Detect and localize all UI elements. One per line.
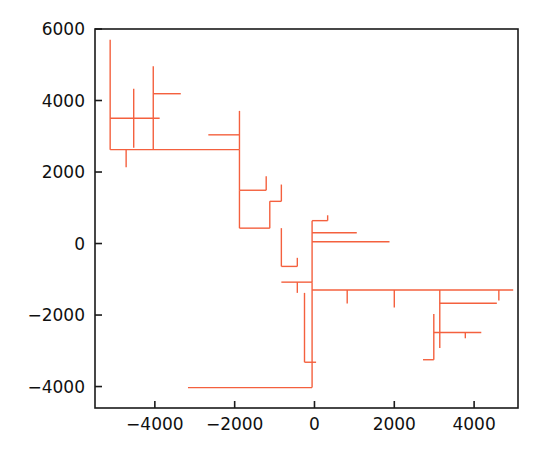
y-tick-label: 6000 <box>42 19 85 39</box>
y-tick-label: −2000 <box>27 305 85 325</box>
x-tick-label: 4000 <box>452 414 495 434</box>
scatter-plot: −4000−2000020004000−4000−200002000400060… <box>0 0 538 462</box>
y-tick-label: 4000 <box>42 91 85 111</box>
x-tick-label: 2000 <box>373 414 416 434</box>
y-tick-label: 0 <box>74 234 85 254</box>
x-tick-label: −4000 <box>126 414 184 434</box>
y-tick-label: −4000 <box>27 377 85 397</box>
y-tick-label: 2000 <box>42 162 85 182</box>
figure-root: −4000−2000020004000−4000−200002000400060… <box>0 0 538 462</box>
x-tick-label: 0 <box>309 414 320 434</box>
x-tick-label: −2000 <box>206 414 264 434</box>
